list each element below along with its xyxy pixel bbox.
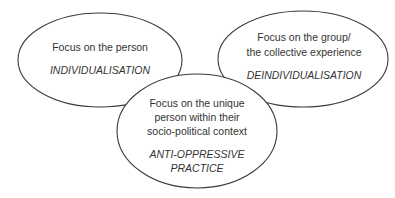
- anti-oppressive-description-line-1: Focus on the unique: [149, 97, 244, 109]
- anti-oppressive-description-line-3: socio-political context: [147, 125, 247, 137]
- venn-diagram: Focus on the person INDIVIDUALISATION Fo…: [0, 0, 395, 198]
- anti-oppressive-label-line-2: PRACTICE: [170, 162, 224, 174]
- deindividualisation-description-line-2: the collective experience: [247, 46, 362, 58]
- anti-oppressive-description-line-2: person within their: [154, 111, 240, 123]
- ellipse-anti-oppressive-practice: Focus on the unique person within their …: [117, 74, 277, 188]
- individualisation-description: Focus on the person: [52, 41, 148, 53]
- anti-oppressive-label-line-1: ANTI-OPPRESSIVE: [148, 148, 245, 160]
- individualisation-label: INDIVIDUALISATION: [50, 64, 151, 76]
- deindividualisation-description-line-1: Focus on the group/: [257, 31, 350, 43]
- deindividualisation-label: DEINDIVIDUALISATION: [247, 69, 362, 81]
